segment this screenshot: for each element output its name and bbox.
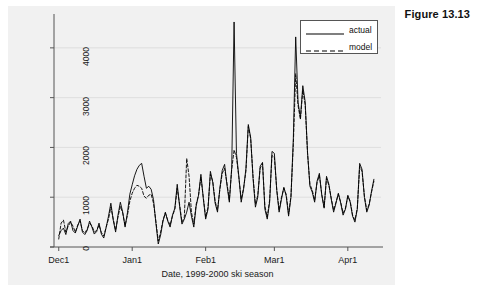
series-line-model [59,74,374,241]
legend-label-actual: actual [349,25,372,35]
y-tick-label: 2000 [81,146,91,186]
x-axis-title: Date, 1999-2000 ski season [161,269,273,279]
y-tick-label: 1000 [81,196,91,236]
y-tick-label: 3000 [81,97,91,137]
figure-container: Figure 13.13 01000200030004000 Dec1Jan1F… [0,0,478,293]
y-tick-label: 4000 [81,47,91,87]
chart-legend: actual model [300,20,378,54]
legend-label-model: model [349,42,372,52]
legend-entry-model: model [301,38,379,55]
x-tick-label: Jan1 [122,255,142,265]
legend-entry-actual: actual [301,21,379,38]
x-tick-label: Mar1 [264,255,285,265]
y-tick-label: 0 [81,246,91,286]
x-tick-label: Dec1 [48,255,69,265]
legend-swatch-dashed [305,42,345,52]
line-chart-plot [0,0,478,293]
legend-swatch-solid [305,25,345,35]
x-tick-label: Feb1 [195,255,216,265]
x-tick-label: Apr1 [338,255,357,265]
